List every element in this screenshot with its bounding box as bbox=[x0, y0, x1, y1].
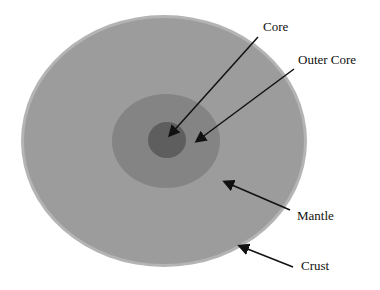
crust-label: Crust bbox=[301, 258, 329, 274]
earth-layers-diagram: Core Outer Core Mantle Crust bbox=[0, 0, 380, 290]
core-shape bbox=[148, 122, 186, 158]
core-label: Core bbox=[263, 19, 288, 35]
crust-pointer-arrow bbox=[240, 246, 293, 267]
mantle-label: Mantle bbox=[297, 208, 334, 224]
diagram-graphic bbox=[0, 0, 380, 290]
outer-core-label: Outer Core bbox=[298, 52, 356, 68]
